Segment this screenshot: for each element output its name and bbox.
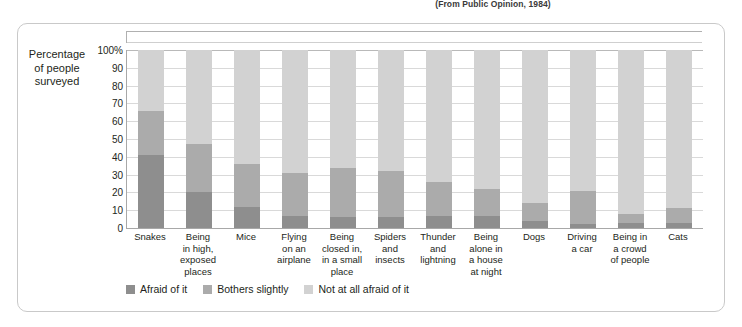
- bar-segment: [282, 216, 308, 228]
- bar-slot: [415, 50, 463, 228]
- x-axis-label-line: and: [367, 243, 413, 255]
- decorative-rule-upper: [126, 31, 702, 32]
- chart-legend: Afraid of itBothers slightlyNot at all a…: [126, 283, 702, 295]
- x-axis-label: Beingalone ina houseat night: [462, 231, 510, 277]
- y-axis-tick-label: 40: [93, 151, 123, 162]
- legend-item[interactable]: Bothers slightly: [203, 283, 288, 295]
- bar-slot: [511, 50, 559, 228]
- decorative-rule-lower: [126, 42, 702, 43]
- plot-area: [126, 50, 703, 229]
- y-axis-tick-label: 100%: [93, 45, 123, 56]
- y-axis-ticks: 100%9080706050403020100: [93, 44, 123, 234]
- bar-slot: [655, 50, 703, 228]
- y-axis-tick-label: 10: [93, 205, 123, 216]
- stacked-bar[interactable]: [234, 50, 260, 228]
- stacked-bar[interactable]: [570, 50, 596, 228]
- x-axis-label: Drivinga car: [558, 231, 606, 277]
- stacked-bar[interactable]: [426, 50, 452, 228]
- y-axis-title-line: surveyed: [21, 75, 93, 89]
- bar-slot: [319, 50, 367, 228]
- y-axis-title-line: Percentage: [21, 48, 93, 62]
- x-axis-label-line: of people: [607, 254, 653, 266]
- y-axis-tick-label: 60: [93, 116, 123, 127]
- x-axis-label-line: Being: [319, 231, 365, 243]
- x-axis-label-line: in a small: [319, 254, 365, 266]
- legend-label: Bothers slightly: [217, 283, 288, 295]
- x-axis-label-line: airplane: [271, 254, 317, 266]
- x-axis-label-line: Dogs: [511, 231, 557, 243]
- x-axis-label: Mice: [222, 231, 270, 277]
- x-axis-label: Snakes: [126, 231, 174, 277]
- bar-series-container: [127, 50, 703, 228]
- bar-segment: [570, 224, 596, 228]
- stacked-bar[interactable]: [378, 50, 404, 228]
- x-axis-label: Flyingon anairplane: [270, 231, 318, 277]
- x-axis-label: Being ina crowdof people: [606, 231, 654, 277]
- bar-slot: [175, 50, 223, 228]
- x-axis-label: Dogs: [510, 231, 558, 277]
- bar-segment: [474, 216, 500, 228]
- bar-segment: [522, 50, 548, 203]
- y-axis-tick-label: 90: [93, 62, 123, 73]
- y-axis-tick-label: 0: [93, 223, 123, 234]
- x-axis-label: Spidersandinsects: [366, 231, 414, 277]
- bar-segment: [186, 144, 212, 192]
- x-axis-label-line: at night: [463, 266, 509, 278]
- stacked-bar[interactable]: [666, 50, 692, 228]
- bar-segment: [618, 214, 644, 223]
- x-axis-label-line: places: [175, 266, 221, 278]
- x-axis-labels: SnakesBeingin high,exposedplacesMiceFlyi…: [126, 231, 702, 277]
- bar-segment: [234, 207, 260, 228]
- bar-segment: [666, 208, 692, 222]
- bar-segment: [522, 203, 548, 221]
- x-axis-label-line: Being in: [607, 231, 653, 243]
- bar-segment: [474, 50, 500, 189]
- x-axis-label-line: Spiders: [367, 231, 413, 243]
- x-axis-label: Cats: [654, 231, 702, 277]
- legend-item[interactable]: Not at all afraid of it: [304, 283, 408, 295]
- x-axis-label-line: a house: [463, 254, 509, 266]
- bar-segment: [330, 217, 356, 228]
- x-axis-label-line: exposed: [175, 254, 221, 266]
- x-axis-label-line: Mice: [223, 231, 269, 243]
- stacked-bar[interactable]: [138, 50, 164, 228]
- bar-segment: [138, 155, 164, 228]
- bar-slot: [463, 50, 511, 228]
- bar-segment: [330, 168, 356, 218]
- bar-slot: [607, 50, 655, 228]
- legend-label: Not at all afraid of it: [318, 283, 408, 295]
- legend-item[interactable]: Afraid of it: [126, 283, 187, 295]
- bar-slot: [559, 50, 607, 228]
- x-axis-label-line: alone in: [463, 243, 509, 255]
- y-axis-tick-label: 70: [93, 98, 123, 109]
- stacked-bar[interactable]: [618, 50, 644, 228]
- bar-segment: [570, 191, 596, 225]
- bar-segment: [522, 221, 548, 228]
- stacked-bar[interactable]: [282, 50, 308, 228]
- bar-segment: [282, 50, 308, 173]
- bar-segment: [282, 173, 308, 216]
- x-axis-label-line: Being: [463, 231, 509, 243]
- x-axis-label-line: Flying: [271, 231, 317, 243]
- bar-segment: [618, 50, 644, 214]
- legend-swatch-icon: [304, 285, 313, 294]
- bar-slot: [223, 50, 271, 228]
- stacked-bar[interactable]: [474, 50, 500, 228]
- y-axis-title-line: of people: [21, 62, 93, 76]
- y-axis-tick-label: 30: [93, 169, 123, 180]
- stacked-bar[interactable]: [330, 50, 356, 228]
- x-axis-label: Thunderandlightning: [414, 231, 462, 277]
- bar-segment: [138, 50, 164, 111]
- bar-segment: [234, 50, 260, 164]
- y-axis-title: Percentageof peoplesurveyed: [21, 48, 93, 89]
- bar-segment: [186, 50, 212, 144]
- x-axis-label: Beingin high,exposedplaces: [174, 231, 222, 277]
- stacked-bar[interactable]: [522, 50, 548, 228]
- bar-segment: [570, 50, 596, 191]
- y-axis-tick-label: 80: [93, 80, 123, 91]
- x-axis-label-line: a crowd: [607, 243, 653, 255]
- x-axis-label-line: Driving: [559, 231, 605, 243]
- decorative-rule-edge: [126, 31, 127, 43]
- bar-segment: [186, 192, 212, 228]
- stacked-bar[interactable]: [186, 50, 212, 228]
